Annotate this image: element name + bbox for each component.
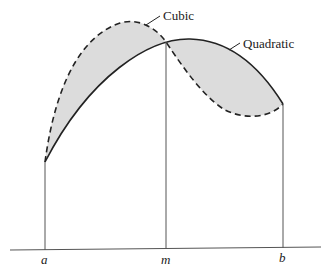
cubic-leader: [146, 16, 160, 25]
axis-label-b: b: [279, 250, 286, 265]
quadratic-leader: [229, 43, 240, 50]
cubic-label: Cubic: [163, 8, 194, 23]
axis-label-a: a: [41, 252, 48, 267]
cubic-vs-quadratic-diagram: Cubic Quadratic a m b: [0, 0, 333, 276]
quadratic-label: Quadratic: [243, 36, 294, 51]
axis-label-m: m: [161, 252, 170, 267]
